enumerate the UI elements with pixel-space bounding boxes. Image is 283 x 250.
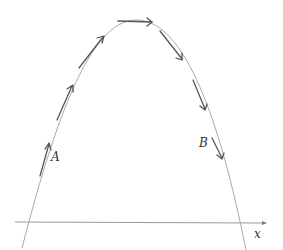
arrow-up-icon	[40, 143, 51, 176]
arrow-up-icon	[79, 36, 104, 68]
trajectory-diagram: x	[0, 0, 283, 250]
trajectory-curve	[22, 20, 246, 250]
arrow-right-icon	[118, 18, 152, 26]
point-b-label: B	[198, 136, 208, 150]
x-axis-line	[15, 222, 262, 223]
arrow-down-icon	[212, 138, 224, 159]
arrow-up-icon	[57, 85, 73, 120]
direction-arrows	[40, 18, 224, 176]
x-axis-label: x	[254, 227, 261, 241]
arrow-down-icon	[193, 80, 207, 110]
arrow-down-icon	[160, 31, 182, 60]
x-axis-arrowhead-icon	[262, 221, 267, 225]
point-a-label: A	[50, 150, 60, 164]
